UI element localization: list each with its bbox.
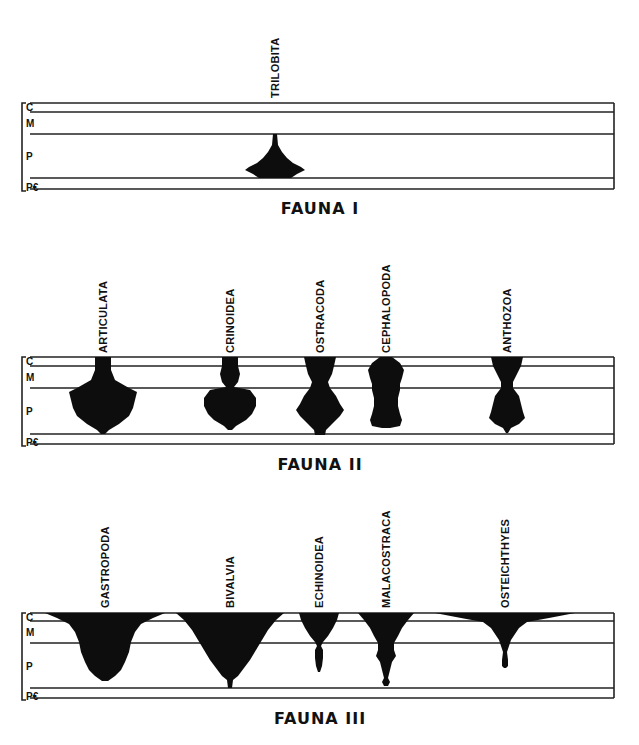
taxon-label: CEPHALOPODA [380, 264, 392, 353]
panel-title: FAUNA II [277, 455, 362, 474]
taxon-label: BIVALVIA [224, 556, 236, 608]
era-bracket [22, 357, 26, 446]
era-label: M [26, 118, 34, 129]
taxon-label: TRILOBITA [269, 37, 281, 98]
era-label: C [26, 102, 33, 113]
era-label: P [26, 406, 33, 417]
panel-fauna-1: CMPP€TRILOBITAFAUNA I [22, 37, 614, 218]
taxon-range-malacostraca [358, 613, 414, 686]
panel-title: FAUNA I [281, 199, 359, 218]
taxon-label: CRINOIDEA [224, 289, 236, 353]
taxon-range-cephalopoda [368, 357, 404, 428]
era-label: P [26, 661, 33, 672]
fauna-diagram: CMPP€TRILOBITAFAUNA ICMPP€ARTICULATACRIN… [0, 0, 639, 745]
panel-fauna-3: CMPP€GASTROPODABIVALVIAECHINOIDEAMALACOS… [22, 510, 614, 728]
taxon-range-anthozoa [489, 357, 525, 433]
taxon-range-bivalvia [176, 613, 284, 688]
taxon-label: OSTEICHTHYES [499, 519, 511, 608]
taxon-label: MALACOSTRACA [380, 510, 392, 608]
taxon-range-crinoidea [204, 357, 256, 430]
taxon-range-trilobita [245, 134, 305, 178]
taxon-label: ECHINOIDEA [313, 536, 325, 608]
era-label: M [26, 627, 34, 638]
era-label: C [26, 612, 33, 623]
panel-title: FAUNA III [274, 709, 366, 728]
taxon-range-articulata [69, 357, 137, 434]
era-label: M [26, 372, 34, 383]
era-label: P€ [26, 437, 39, 448]
taxon-range-gastropoda [45, 613, 165, 681]
era-label: P [26, 151, 33, 162]
taxon-label: OSTRACODA [314, 279, 326, 353]
era-label: P€ [26, 691, 39, 702]
era-bracket [22, 103, 26, 191]
taxon-label: GASTROPODA [99, 526, 111, 608]
era-label: P€ [26, 182, 39, 193]
taxon-range-ostracoda [296, 357, 344, 435]
panel-fauna-2: CMPP€ARTICULATACRINOIDEAOSTRACODACEPHALO… [22, 264, 614, 474]
era-label: C [26, 356, 33, 367]
taxon-label: ARTICULATA [97, 281, 109, 353]
taxon-label: ANTHOZOA [501, 288, 513, 353]
